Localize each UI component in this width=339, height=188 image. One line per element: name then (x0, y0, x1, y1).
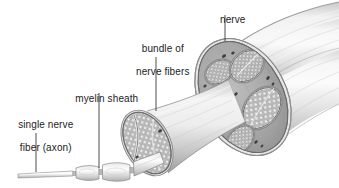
label-bundle-of-nerve-fibers: bundle of nerve fibers (119, 31, 195, 89)
label-myelin-text: myelin sheath (75, 93, 138, 104)
nerve-diagram-figure: nerve bundle of nerve fibers myelin shea… (0, 0, 339, 188)
label-single-nerve-fiber: single nerve fiber (axon) (4, 107, 76, 165)
label-single-fiber-line1: single nerve (18, 119, 73, 130)
label-nerve-text: nerve (220, 14, 246, 25)
label-bundle-line2: nerve fibers (136, 66, 189, 77)
label-nerve: nerve (207, 2, 247, 37)
label-single-fiber-line2: fiber (axon) (20, 142, 72, 153)
label-bundle-line1: bundle of (142, 43, 184, 54)
